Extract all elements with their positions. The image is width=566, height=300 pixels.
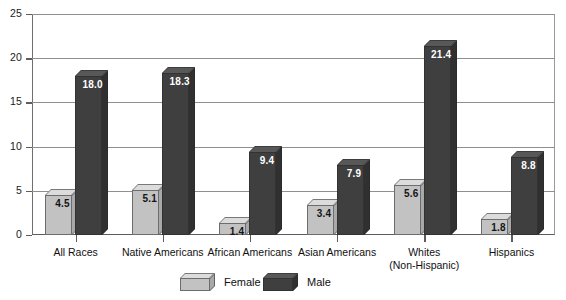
gridline	[32, 191, 555, 192]
y-axis-label: 0	[2, 228, 22, 240]
bar-male	[424, 46, 451, 235]
x-axis-tick	[76, 235, 77, 242]
plot-area	[32, 14, 555, 235]
bar-male	[162, 73, 189, 235]
male-swatch-icon	[263, 278, 293, 291]
gridline	[32, 102, 555, 103]
legend-label-female: Female	[224, 276, 261, 288]
y-axis-tick	[26, 235, 32, 236]
y-axis-tick	[26, 191, 32, 192]
y-axis-label: 5	[2, 184, 22, 196]
bar-value-label: 21.4	[425, 49, 458, 60]
y-axis-label: 20	[2, 51, 22, 63]
y-axis-tick	[26, 58, 32, 59]
bar-value-label: 8.8	[512, 160, 545, 171]
legend-label-male: Male	[307, 276, 331, 288]
gridline	[32, 147, 555, 148]
bar-value-label: 7.9	[338, 168, 371, 179]
x-axis-tick	[337, 235, 338, 242]
bar-value-label: 18.0	[76, 79, 109, 90]
bar-value-label: 18.3	[163, 76, 196, 87]
x-axis-tick	[511, 235, 512, 242]
gridline	[32, 14, 555, 15]
female-swatch-icon	[180, 278, 210, 291]
y-axis-tick	[26, 147, 32, 148]
x-axis-tick	[163, 235, 164, 242]
x-axis-tick	[250, 235, 251, 242]
y-axis-tick	[26, 14, 32, 15]
bar-chart: 0510152025 4.518.05.118.31.49.43.47.95.6…	[0, 0, 566, 300]
bar-value-label: 9.4	[250, 155, 283, 166]
gridline	[32, 58, 555, 59]
x-axis-tick	[424, 235, 425, 242]
y-axis-label: 10	[2, 140, 22, 152]
y-axis-label: 15	[2, 95, 22, 107]
bar-male	[75, 76, 102, 235]
chart-legend: Female Male	[0, 272, 566, 298]
x-axis-category-label: Hispanics	[451, 246, 566, 259]
y-axis-label: 25	[2, 7, 22, 19]
y-axis-tick	[26, 102, 32, 103]
